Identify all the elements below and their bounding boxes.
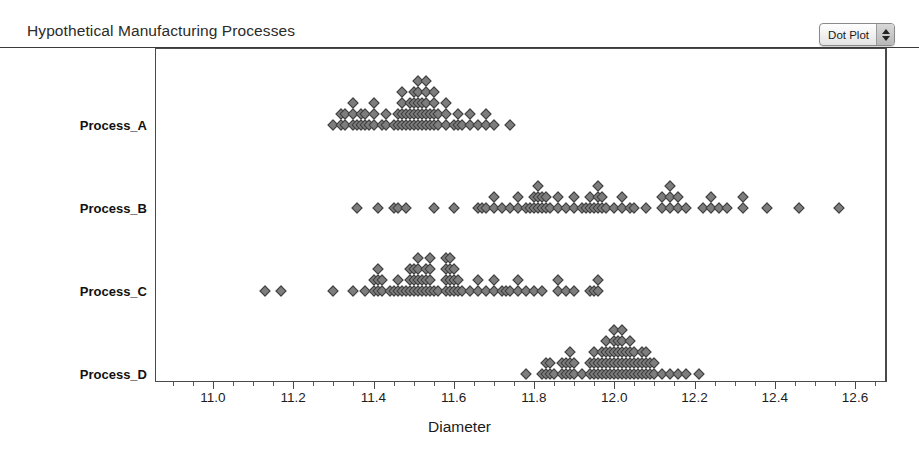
x-tick-label: 12.2 — [681, 390, 707, 405]
x-tick-minor — [414, 382, 415, 386]
x-tick-major — [374, 382, 375, 389]
x-tick-minor — [835, 382, 836, 386]
x-tick-label: 11.2 — [281, 390, 306, 405]
page-title: Hypothetical Manufacturing Processes — [27, 22, 295, 40]
x-tick-minor — [554, 382, 555, 386]
x-tick-major — [775, 382, 776, 389]
category-label-process_b: Process_B — [0, 201, 147, 216]
x-tick-minor — [333, 382, 334, 386]
plot-type-value: Dot Plot — [820, 24, 876, 45]
x-tick-minor — [313, 382, 314, 386]
x-tick-minor — [173, 382, 174, 386]
x-tick-label: 12.0 — [601, 390, 627, 405]
x-tick-label: 12.4 — [762, 390, 788, 405]
x-tick-minor — [634, 382, 635, 386]
x-tick-label: 12.6 — [842, 390, 868, 405]
plot-type-dropdown[interactable]: Dot Plot — [819, 23, 895, 46]
category-label-process_c: Process_C — [0, 284, 147, 299]
x-tick-major — [454, 382, 455, 389]
x-tick-minor — [353, 382, 354, 386]
x-tick-major — [695, 382, 696, 389]
x-tick-minor — [795, 382, 796, 386]
x-tick-minor — [514, 382, 515, 386]
arrow-up-icon[interactable] — [882, 29, 890, 34]
x-tick-minor — [233, 382, 234, 386]
arrow-down-icon[interactable] — [882, 36, 890, 41]
x-tick-minor — [735, 382, 736, 386]
x-tick-minor — [674, 382, 675, 386]
plot-border-top — [155, 48, 886, 49]
x-tick-minor — [273, 382, 274, 386]
x-tick-label: 11.0 — [200, 390, 225, 405]
x-tick-minor — [394, 382, 395, 386]
x-tick-major — [213, 382, 214, 389]
x-tick-major — [614, 382, 615, 389]
x-tick-minor — [715, 382, 716, 386]
plot-area — [155, 48, 886, 382]
x-axis-title: Diameter — [0, 418, 919, 436]
x-tick-label: 11.6 — [441, 390, 466, 405]
x-tick-minor — [594, 382, 595, 386]
x-tick-minor — [815, 382, 816, 386]
x-tick-label: 11.4 — [361, 390, 386, 405]
plot-border-right — [885, 48, 887, 382]
x-tick-minor — [574, 382, 575, 386]
plot-type-stepper[interactable] — [876, 24, 894, 45]
x-tick-minor — [474, 382, 475, 386]
x-tick-minor — [253, 382, 254, 386]
x-tick-minor — [434, 382, 435, 386]
x-tick-major — [534, 382, 535, 389]
dot-plot-application: Hypothetical Manufacturing Processes Dot… — [0, 0, 919, 454]
x-tick-major — [855, 382, 856, 389]
category-label-process_d: Process_D — [0, 367, 147, 382]
x-tick-major — [293, 382, 294, 389]
category-label-process_a: Process_A — [0, 118, 147, 133]
x-tick-minor — [193, 382, 194, 386]
x-tick-minor — [494, 382, 495, 386]
x-tick-minor — [654, 382, 655, 386]
x-tick-minor — [755, 382, 756, 386]
x-tick-label: 11.8 — [521, 390, 546, 405]
x-tick-minor — [875, 382, 876, 386]
